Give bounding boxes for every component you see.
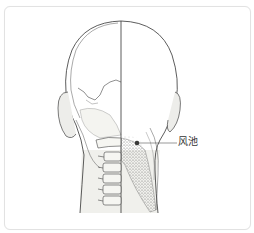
head-anatomy-illustration	[0, 0, 254, 233]
fengchi-point-marker	[135, 141, 140, 146]
right-ear	[167, 92, 180, 132]
acupoint-label: 风池	[178, 135, 198, 149]
left-ear	[58, 92, 76, 138]
